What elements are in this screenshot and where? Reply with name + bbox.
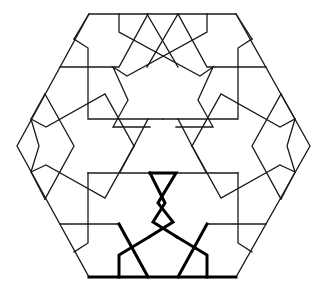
hexagon-pattern-svg: [0, 0, 328, 295]
pattern-line: [74, 14, 89, 39]
highlight-line: [119, 224, 148, 277]
pattern-line: [120, 146, 134, 172]
highlighted-motif: [89, 173, 236, 277]
pattern-line: [281, 94, 295, 199]
outer-hexagon: [17, 14, 310, 277]
pattern-line: [252, 94, 281, 199]
pattern-line: [236, 14, 252, 39]
highlight-line: [178, 224, 207, 277]
pattern-line: [31, 94, 134, 146]
pattern-line: [113, 14, 207, 127]
pattern-line: [134, 119, 148, 146]
pattern-line: [31, 146, 134, 198]
pattern-line: [192, 146, 295, 198]
pattern-line: [119, 14, 213, 127]
highlight-line: [150, 173, 177, 237]
pattern-line: [45, 94, 74, 199]
pattern-line: [192, 94, 295, 146]
pattern-line: [178, 119, 192, 146]
pattern-line: [192, 146, 206, 172]
pattern-diagram: [0, 0, 328, 295]
